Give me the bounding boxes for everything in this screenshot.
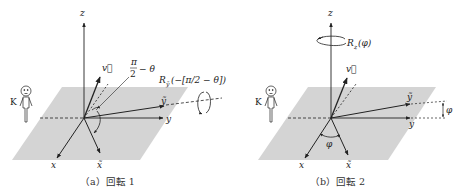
z-axis-label: z [79, 8, 85, 18]
observer-label: K [10, 97, 17, 107]
svg-text:R: R [158, 75, 166, 85]
svg-text:ỹ: ỹ [165, 80, 170, 88]
v-vector-label: v⃗ [346, 64, 357, 74]
svg-text:− θ: − θ [139, 64, 155, 74]
panel-b: z R z (φ) y ỹ φ x x̃ φ v⃗ [255, 8, 453, 187]
z-axis-label: z [327, 8, 333, 18]
x-axis-label: x [299, 160, 304, 170]
y-tilde-label: ỹ [406, 92, 413, 102]
rotation-label-rz: R z (φ) [346, 38, 372, 50]
observer-label: K [255, 97, 262, 107]
observer-figure-icon [265, 86, 277, 122]
svg-text:(−[π/2 − θ]): (−[π/2 − θ]) [171, 75, 226, 85]
rotation-arrow-icon [198, 92, 204, 114]
svg-text:(φ): (φ) [358, 38, 372, 48]
svg-text:R: R [346, 38, 354, 48]
x-tilde-label: x̃ [346, 160, 351, 170]
y-tilde-label: ỹ [160, 96, 167, 106]
y-axis-label: y [408, 119, 415, 129]
caption-b: （b）回転 2 [310, 176, 365, 187]
observer-figure-icon [20, 86, 32, 122]
rotation-diagram: z y ỹ x x̃ v⃗ π 2 − θ R [0, 0, 457, 196]
x-axis-label: x [51, 160, 56, 170]
angle-label-pi-half-minus-theta: π 2 − θ [130, 57, 155, 79]
panel-a: z y ỹ x x̃ v⃗ π 2 − θ R [10, 8, 226, 187]
phi-label: φ [326, 139, 333, 149]
v-vector-label: v⃗ [102, 63, 113, 73]
caption-a: （a）回転 1 [80, 176, 135, 187]
y-axis-label: y [165, 114, 172, 124]
svg-text:2: 2 [130, 69, 136, 79]
x-tilde-label: x̃ [97, 160, 102, 170]
rotation-label-ry: R ỹ (−[π/2 − θ]) [158, 75, 226, 88]
svg-text:π: π [130, 57, 138, 67]
phi-side-label: φ [446, 105, 453, 115]
